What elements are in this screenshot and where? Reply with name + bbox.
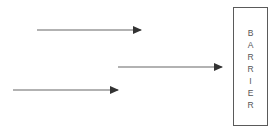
- diagram-canvas: B A R R I E R: [0, 0, 280, 131]
- barrier-letter: E: [234, 87, 267, 99]
- barrier-letter: R: [234, 63, 267, 75]
- barrier-letter: A: [234, 39, 267, 51]
- barrier-letter: B: [234, 27, 267, 39]
- barrier-box: B A R R I E R: [233, 7, 268, 126]
- barrier-letter: R: [234, 99, 267, 111]
- barrier-letter: I: [234, 75, 267, 87]
- barrier-letter: R: [234, 51, 267, 63]
- barrier-label: B A R R I E R: [234, 27, 267, 111]
